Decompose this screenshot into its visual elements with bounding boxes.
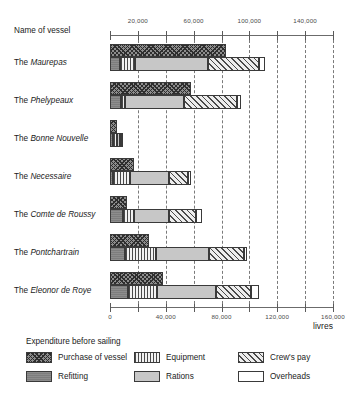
bar-segment-crews-pay	[209, 247, 244, 261]
bar-segment-rations	[130, 171, 169, 185]
bar-segment-crews-pay	[169, 171, 189, 185]
axis-units-label: livres	[313, 321, 333, 331]
legend-swatch-crew	[238, 352, 264, 363]
tick-mark	[166, 303, 167, 312]
bar-segment-overheads	[237, 95, 241, 109]
vessel-name-label: The Comte de Roussy	[14, 210, 95, 219]
axis-tick-label: 120,000	[265, 313, 289, 320]
vessel-name-label: The Phelypeaux	[14, 96, 73, 105]
tick-mark	[277, 31, 278, 40]
bar-segment-refitting	[110, 57, 120, 71]
bar-purchase-of-vessel	[110, 158, 134, 171]
axis-tick-label: 60,000	[184, 17, 204, 24]
bar-segment-equipment	[128, 285, 157, 299]
bar-segment-rations	[156, 247, 209, 261]
legend-item-equipment: Equipment	[134, 352, 205, 363]
bar-segment-refitting	[110, 247, 125, 261]
bar-purchase-of-vessel	[110, 82, 191, 95]
vessel-name-label: The Eleonor de Roye	[14, 286, 91, 295]
legend-item-purchase: Purchase of vessel	[26, 352, 127, 363]
tick-mark	[138, 303, 139, 312]
legend-item-rations: Rations	[134, 371, 194, 382]
legend-label-equipment: Equipment	[166, 353, 205, 362]
legend-item-refitting: Refitting	[26, 371, 88, 382]
legend-item-overheads: Overheads	[238, 371, 310, 382]
axis-tick-label: 0	[108, 313, 112, 320]
legend-swatch-overheads	[238, 371, 264, 382]
legend-label-crew: Crew's pay	[270, 353, 310, 362]
bar-segment-refitting	[110, 209, 123, 223]
bar-segment-overheads	[188, 171, 191, 185]
axis-tick-label: 160,000	[321, 313, 345, 320]
axis-tick-label: 140,000	[293, 17, 317, 24]
bar-segment-rations	[125, 95, 184, 109]
bar-segment-overheads	[251, 285, 259, 299]
bar-segment-rations	[135, 57, 207, 71]
gridline	[222, 40, 223, 304]
bar-segment-equipment	[123, 209, 134, 223]
bar-segment-equipment	[120, 57, 135, 71]
bar-segment-rations	[134, 209, 169, 223]
bar-segment-crews-pay	[184, 95, 237, 109]
tick-mark	[333, 31, 334, 40]
legend-swatch-rations	[134, 371, 160, 382]
vessel-name-label: The Pontchartrain	[14, 248, 79, 257]
tick-mark	[138, 31, 139, 40]
axis-tick-label: 40,000	[156, 313, 176, 320]
legend-label-overheads: Overheads	[270, 372, 310, 381]
bar-segment-overheads	[121, 133, 123, 147]
tick-mark	[277, 303, 278, 312]
vessel-name-label: The Maurepas	[14, 58, 67, 67]
bar-segment-equipment	[125, 247, 156, 261]
tick-mark	[305, 303, 306, 312]
bar-segment-overheads	[259, 57, 265, 71]
bar-purchase-of-vessel	[110, 44, 226, 57]
tick-mark	[333, 303, 334, 312]
tick-mark	[166, 31, 167, 40]
bar-segment-refitting	[110, 285, 128, 299]
axis-tick-label: 20,000	[128, 17, 148, 24]
bar-segment-refitting	[110, 95, 121, 109]
tick-mark	[194, 31, 195, 40]
gridline	[194, 40, 195, 304]
bar-purchase-of-vessel	[110, 120, 117, 133]
tick-mark	[249, 303, 250, 312]
tick-mark	[249, 31, 250, 40]
gridline	[333, 40, 334, 304]
legend-label-refitting: Refitting	[58, 372, 88, 381]
vessel-name-label: The Bonne Nouvelle	[14, 134, 88, 143]
gridline	[277, 40, 278, 304]
gridline	[305, 40, 306, 304]
bar-segment-rations	[157, 285, 216, 299]
bar-segment-overheads	[196, 209, 202, 223]
bar-purchase-of-vessel	[110, 196, 127, 209]
bar-segment-crews-pay	[216, 285, 251, 299]
tick-mark	[222, 303, 223, 312]
bar-segment-equipment	[113, 171, 130, 185]
bar-purchase-of-vessel	[110, 234, 149, 247]
legend-item-crew: Crew's pay	[238, 352, 310, 363]
legend-swatch-equipment	[134, 352, 160, 363]
vessel-name-label: The Necessaire	[14, 172, 71, 181]
bar-segment-crews-pay	[169, 209, 197, 223]
bar-segment-crews-pay	[208, 57, 260, 71]
name-of-vessel-column-header: Name of vessel	[14, 26, 70, 35]
legend-label-rations: Rations	[166, 372, 194, 381]
tick-mark	[110, 303, 111, 312]
axis-tick-label: 100,000	[237, 17, 261, 24]
gridline	[249, 40, 250, 304]
tick-mark	[194, 303, 195, 312]
tick-mark	[222, 31, 223, 40]
tick-mark	[110, 31, 111, 40]
legend-swatch-refitting	[26, 371, 52, 382]
tick-mark	[305, 31, 306, 40]
legend-title: Expenditure before sailing	[26, 337, 121, 346]
legend-label-purchase: Purchase of vessel	[58, 353, 127, 362]
bar-purchase-of-vessel	[110, 272, 163, 285]
legend-swatch-purchase	[26, 352, 52, 363]
axis-tick-label: 80,000	[211, 313, 231, 320]
bar-segment-overheads	[244, 247, 247, 261]
